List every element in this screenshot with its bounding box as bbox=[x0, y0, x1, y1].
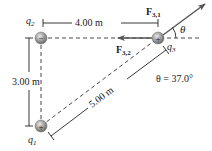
charge-q3-label: q3 bbox=[167, 41, 176, 54]
force-f32-label: F3,2 bbox=[116, 44, 131, 57]
charge-q1: + bbox=[35, 120, 47, 132]
charge-q2-label: q2 bbox=[26, 15, 35, 28]
force-f31-label: F3,1 bbox=[146, 6, 161, 19]
angle-symbol: θ bbox=[180, 23, 186, 35]
charge-q1-label: q1 bbox=[28, 134, 37, 147]
dashed-line-q1-q3 bbox=[41, 38, 158, 126]
charge-q2-sign: − bbox=[38, 33, 43, 43]
dimension-horizontal-label: 4.00 m bbox=[75, 17, 103, 28]
charge-q1-sign: + bbox=[38, 122, 43, 132]
dimension-diagonal: 5.00 m bbox=[48, 46, 169, 140]
charge-q3: + bbox=[152, 32, 164, 44]
angle-annotation: θ = 37.0° bbox=[156, 73, 193, 84]
charge-q3-sign: + bbox=[155, 34, 160, 44]
charge-diagram: 4.00 m 3.00 m 5.00 m θ F3,1 F3,2 θ = 37.… bbox=[0, 0, 212, 151]
angle-arc bbox=[173, 28, 177, 39]
dimension-vertical-label: 3.00 m bbox=[12, 76, 40, 87]
dimension-horizontal: 4.00 m bbox=[43, 17, 158, 28]
dimension-diagonal-label: 5.00 m bbox=[87, 84, 116, 110]
dimension-vertical: 3.00 m bbox=[12, 38, 40, 126]
charge-q2: − bbox=[35, 32, 47, 44]
